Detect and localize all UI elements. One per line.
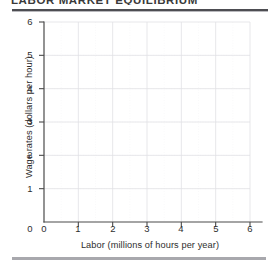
y-axis-ticks	[39, 22, 44, 189]
x-tick-label-6: 6	[243, 223, 257, 234]
x-axis-label: Labor (millions of hours per year)	[44, 240, 256, 250]
figure-container: LABOR MARKET EQUILIBRIUM	[0, 0, 280, 266]
x-tick-label-5: 5	[209, 223, 223, 234]
x-tick-label-1: 1	[71, 223, 85, 234]
y-tick-label-0: 0	[23, 223, 37, 234]
y-axis-label: Wage rates (dollars per hour)	[24, 22, 34, 212]
x-tick-label-0: 0	[37, 223, 51, 234]
major-gridlines	[44, 22, 250, 222]
x-tick-label-4: 4	[174, 223, 188, 234]
x-axis-ticks	[78, 222, 250, 227]
x-tick-label-2: 2	[106, 223, 120, 234]
x-tick-label-3: 3	[140, 223, 154, 234]
bottom-rule	[12, 257, 266, 260]
